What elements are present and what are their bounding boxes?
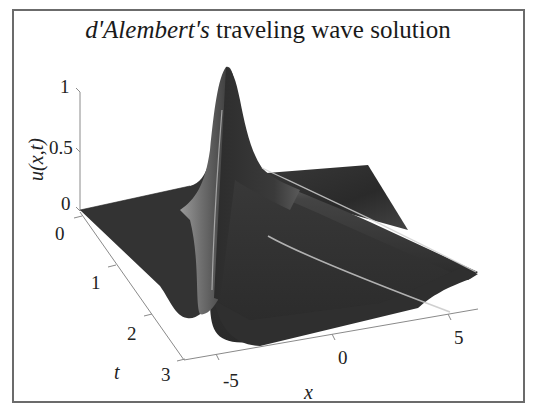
z-tick-0-5: 0.5 xyxy=(49,137,73,159)
z-axis-label: u(x,t) xyxy=(25,130,48,190)
t-tick-0: 0 xyxy=(55,223,65,245)
z-tick-0: 0 xyxy=(61,193,71,215)
surface-plot xyxy=(0,0,536,413)
x-axis-label: x xyxy=(304,381,313,404)
z-axis xyxy=(76,88,80,211)
surface xyxy=(80,67,478,346)
x-tick-5: 5 xyxy=(454,327,464,349)
x-tick-0: 0 xyxy=(338,347,348,369)
t-axis-label: t xyxy=(114,361,120,384)
x-tick-neg5: -5 xyxy=(223,370,239,392)
t-tick-1: 1 xyxy=(91,272,101,294)
t-tick-2: 2 xyxy=(127,323,137,345)
t-tick-3: 3 xyxy=(161,364,171,386)
z-tick-1: 1 xyxy=(60,76,70,98)
